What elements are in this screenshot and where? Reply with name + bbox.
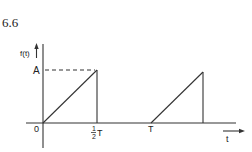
y-arrowhead-icon bbox=[34, 43, 38, 49]
origin-label: 0 bbox=[34, 124, 39, 134]
amplitude-label: A bbox=[33, 65, 40, 76]
half-period-den: 2 bbox=[92, 133, 96, 140]
half-period-T: T bbox=[97, 128, 103, 138]
ramp-1 bbox=[43, 70, 97, 123]
x-axis-label: t bbox=[226, 134, 229, 144]
sawtooth-diagram: f(t) A 0 1 2 T T t bbox=[0, 0, 252, 152]
period-label: T bbox=[148, 124, 154, 134]
half-period-num: 1 bbox=[92, 125, 96, 132]
ramp-2 bbox=[151, 72, 203, 123]
t-arrowhead-icon bbox=[239, 129, 245, 133]
y-axis-label: f(t) bbox=[20, 49, 30, 58]
